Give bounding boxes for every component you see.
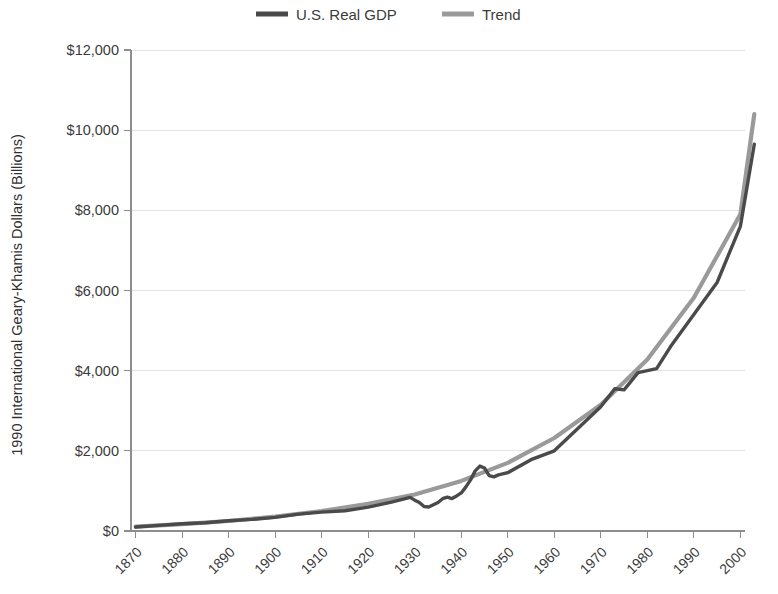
y-tick-label: $8,000 (75, 202, 119, 218)
gdp-line-chart: U.S. Real GDPTrend $0$2,000$4,000$6,000$… (0, 0, 778, 594)
y-axis-title: 1990 International Geary-Khamis Dollars … (9, 134, 25, 456)
legend-label: U.S. Real GDP (296, 6, 397, 23)
y-tick-label: $4,000 (75, 363, 119, 379)
y-tick-label: $0 (103, 523, 119, 539)
y-tick-label: $10,000 (67, 122, 119, 138)
legend-label: Trend (482, 6, 521, 23)
y-tick-label: $12,000 (67, 42, 119, 58)
y-tick-label: $6,000 (75, 283, 119, 299)
chart-container: U.S. Real GDPTrend $0$2,000$4,000$6,000$… (0, 0, 778, 594)
y-tick-label: $2,000 (75, 443, 119, 459)
